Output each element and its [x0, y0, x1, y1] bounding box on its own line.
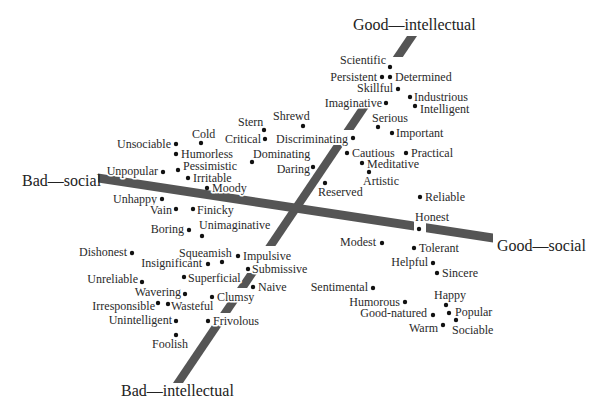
intellectual-axis-segment	[173, 325, 222, 383]
data-point-dot	[435, 271, 439, 275]
data-point-dot	[441, 323, 445, 327]
trait-label: Artistic	[363, 174, 399, 188]
data-point-dot	[351, 136, 355, 140]
data-point-dot	[388, 75, 392, 79]
trait-point: Helpful	[391, 255, 435, 269]
data-point-dot	[390, 131, 394, 135]
trait-label: Intelligent	[420, 102, 470, 116]
data-point-dot	[251, 285, 255, 289]
trait-label: Finicky	[197, 203, 234, 217]
trait-point: Unsociable	[117, 137, 178, 151]
trait-point: Vain	[150, 203, 178, 217]
trait-label: Sincere	[442, 266, 478, 280]
data-point-dot	[160, 197, 164, 201]
trait-point: Sincere	[435, 266, 478, 280]
trait-label: Foolish	[152, 337, 188, 351]
trait-label: Sociable	[452, 323, 493, 337]
trait-points: ScientificPersistentDeterminedSkillfulIn…	[79, 53, 493, 351]
trait-point: Unintelligent	[109, 313, 179, 327]
data-point-dot	[454, 318, 458, 322]
trait-point: Imaginative	[325, 96, 389, 110]
trait-label: Unpopular	[107, 164, 158, 178]
data-point-dot	[431, 313, 435, 317]
data-point-dot	[156, 301, 160, 305]
trait-point: Intelligent	[413, 102, 470, 116]
trait-label: Imaginative	[325, 96, 382, 110]
data-point-dot	[220, 260, 224, 264]
trait-point: Superficial	[182, 271, 242, 285]
trait-label: Sentimental	[311, 280, 369, 294]
data-point-dot	[413, 104, 417, 108]
trait-label: Clumsy	[217, 290, 254, 304]
trait-point: Shrewd	[273, 109, 310, 128]
data-point-dot	[174, 319, 178, 323]
trait-label: Frivolous	[213, 314, 259, 328]
trait-point: Unreliable	[87, 272, 144, 286]
trait-label: Wavering	[135, 285, 181, 299]
data-point-dot	[418, 195, 422, 199]
data-point-dot	[388, 65, 392, 69]
trait-point: Artistic	[363, 170, 399, 188]
data-point-dot	[130, 251, 134, 255]
trait-label: Irresponsible	[92, 299, 155, 313]
trait-label: Reliable	[425, 190, 465, 204]
data-point-dot	[384, 101, 388, 105]
data-point-dot	[404, 151, 408, 155]
data-point-dot	[183, 292, 187, 296]
trait-label: Superficial	[188, 271, 241, 285]
trait-label: Daring	[277, 162, 310, 176]
trait-point: Important	[390, 126, 444, 140]
trait-point: Sentimental	[311, 280, 376, 294]
trait-point: Determined	[388, 70, 452, 84]
data-point-dot	[191, 207, 195, 211]
data-point-dot	[174, 207, 178, 211]
trait-point: Skillful	[357, 81, 400, 95]
trait-point: Moody	[205, 181, 247, 195]
trait-label: Good-natured	[360, 306, 427, 320]
trait-point: Boring	[151, 222, 192, 236]
data-point-dot	[263, 137, 267, 141]
trait-label: Popular	[455, 305, 492, 319]
trait-label: Impulsive	[243, 249, 291, 263]
intellectual-axis-segment	[393, 36, 417, 57]
trait-point: Foolish	[152, 333, 188, 351]
data-point-dot	[246, 267, 250, 271]
trait-label: Happy	[434, 288, 466, 302]
data-point-dot	[200, 234, 204, 238]
trait-point: Critical	[225, 132, 267, 146]
trait-label: Shrewd	[273, 109, 310, 123]
trait-point: Meditative	[360, 157, 419, 171]
data-point-dot	[140, 280, 144, 284]
trait-point: Dishonest	[79, 245, 134, 259]
data-point-dot	[380, 241, 384, 245]
trait-point: Tolerant	[412, 241, 460, 255]
trait-label: Helpful	[391, 255, 428, 269]
data-point-dot	[187, 228, 191, 232]
trait-label: Unreliable	[87, 272, 138, 286]
trait-label: Skillful	[357, 81, 394, 95]
trait-label: Unimaginative	[199, 218, 270, 232]
data-point-dot	[199, 141, 203, 145]
data-point-dot	[166, 302, 170, 306]
data-point-dot	[412, 246, 416, 250]
trait-label: Honest	[415, 210, 450, 224]
data-point-dot	[311, 165, 315, 169]
trait-point: Clumsy	[210, 290, 255, 304]
trait-label: Unintelligent	[109, 313, 173, 327]
trait-point: Finicky	[191, 203, 234, 217]
data-point-dot	[323, 181, 327, 185]
trait-label: Naive	[258, 280, 287, 294]
data-point-dot	[417, 227, 421, 231]
trait-point: Impulsive	[236, 249, 291, 263]
data-point-dot	[161, 170, 165, 174]
data-point-dot	[182, 275, 186, 279]
data-point-dot	[301, 124, 305, 128]
trait-label: Boring	[151, 222, 184, 236]
trait-label: Meditative	[367, 157, 419, 171]
trait-label: Tolerant	[419, 241, 459, 255]
trait-point: Irresponsible	[92, 299, 160, 313]
data-point-dot	[176, 168, 180, 172]
trait-point: Reserved	[318, 181, 363, 199]
trait-label: Critical	[225, 132, 262, 146]
data-point-dot	[367, 170, 371, 174]
